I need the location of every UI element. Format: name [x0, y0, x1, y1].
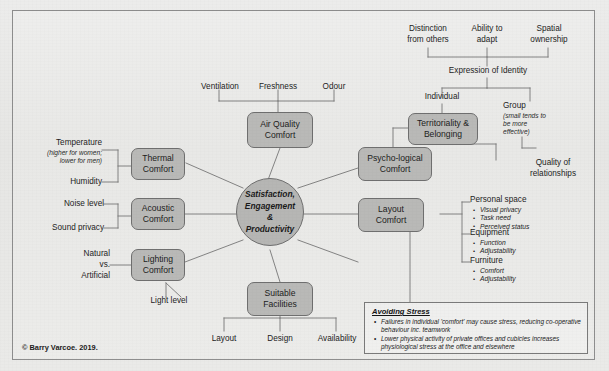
detail-group-equipment: Equipment Function Adjustability — [470, 228, 590, 256]
driver-facility-layout: Layout — [200, 334, 248, 345]
temperature-note-2: lower for men) — [24, 157, 102, 165]
node-lighting-comfort[interactable]: LightingComfort — [131, 249, 185, 281]
detail-list: Comfort Adjustability — [470, 267, 590, 284]
center-line-1: Satisfaction, — [245, 189, 295, 201]
list-item: Function — [480, 239, 590, 247]
avoiding-stress-title: Avoiding Stress — [372, 307, 582, 316]
node-territoriality-belonging[interactable]: Territoriality &Belonging — [408, 113, 478, 145]
list-item: Failures in individual 'comfort' may cau… — [381, 318, 582, 334]
node-thermal-label: ThermalComfort — [142, 153, 174, 175]
label-quality-of-relationships: Quality of relationships — [513, 158, 593, 179]
driver-light-level: Light level — [138, 296, 200, 307]
detail-head: Personal space — [470, 195, 590, 205]
label-group: Group (small tends to be more effective) — [503, 101, 565, 136]
detail-group-personal-space: Personal space Visual privacy Task need … — [470, 195, 590, 231]
detail-head: Furniture — [470, 256, 590, 266]
driver-vs: vs. — [44, 260, 110, 271]
driver-facility-design: Design — [257, 334, 303, 345]
node-layout-comfort[interactable]: LayoutComfort — [358, 198, 424, 232]
list-item: Lower physical activity of private offic… — [381, 335, 582, 351]
center-node: Satisfaction, Engagement & Productivity — [236, 178, 304, 246]
node-territoriality-label: Territoriality &Belonging — [417, 118, 469, 140]
node-psychological-comfort[interactable]: Psycho-logicalComfort — [358, 147, 432, 181]
list-item: Comfort — [480, 267, 590, 275]
driver-odour: Odour — [313, 82, 355, 93]
detail-group-furniture: Furniture Comfort Adjustability — [470, 256, 590, 284]
label-individual: Individual — [412, 92, 472, 103]
node-psychological-label: Psycho-logicalComfort — [367, 153, 422, 175]
node-air-quality-comfort[interactable]: Air QualityComfort — [247, 112, 313, 148]
center-line-4: Productivity — [245, 224, 295, 236]
driver-distinction-from-others: Distinction from others — [398, 24, 458, 45]
copyright-notice: © Barry Varcoe. 2019. — [22, 343, 98, 352]
group-note-2: be more — [503, 120, 565, 128]
group-note-1: (small tends to — [503, 112, 565, 120]
center-line-3: & — [245, 212, 295, 224]
node-acoustic-label: AcousticComfort — [142, 203, 174, 225]
node-suitable-facilities[interactable]: SuitableFacilities — [247, 282, 313, 316]
driver-temperature: Temperature (higher for women; lower for… — [24, 138, 102, 165]
driver-spatial-ownership: Spatial ownership — [518, 24, 580, 45]
list-item: Task need — [480, 214, 590, 222]
driver-freshness: Freshness — [254, 82, 302, 93]
node-acoustic-comfort[interactable]: AcousticComfort — [131, 198, 185, 230]
avoiding-stress-box: Avoiding Stress Failures in individual '… — [364, 302, 588, 354]
detail-list: Function Adjustability — [470, 239, 590, 256]
node-air-quality-label: Air QualityComfort — [260, 119, 300, 141]
driver-facility-availability: Availability — [307, 334, 367, 345]
driver-humidity: Humidity — [24, 177, 102, 188]
node-facilities-label: SuitableFacilities — [263, 288, 296, 310]
driver-sound-privacy: Sound privacy — [18, 223, 104, 234]
center-line-2: Engagement — [245, 201, 295, 213]
avoiding-stress-list: Failures in individual 'comfort' may cau… — [371, 318, 582, 351]
group-note-3: effective) — [503, 128, 565, 136]
driver-artificial: Artificial — [44, 271, 110, 282]
detail-head: Equipment — [470, 228, 590, 238]
label-expression-of-identity: Expression of Identity — [432, 66, 544, 77]
node-thermal-comfort[interactable]: ThermalComfort — [131, 148, 185, 180]
list-item: Visual privacy — [480, 206, 590, 214]
diagram-canvas: Satisfaction, Engagement & Productivity … — [0, 0, 609, 371]
list-item: Adjustability — [480, 275, 590, 283]
list-item: Adjustability — [480, 247, 590, 255]
node-layout-label: LayoutComfort — [376, 204, 407, 226]
driver-ventilation: Ventilation — [196, 82, 244, 93]
temperature-note-1: (higher for women; — [24, 149, 102, 157]
driver-ability-to-adapt: Ability to adapt — [459, 24, 515, 45]
node-lighting-label: LightingComfort — [143, 254, 174, 276]
driver-noise-level: Noise level — [24, 199, 104, 210]
driver-natural: Natural — [44, 249, 110, 260]
